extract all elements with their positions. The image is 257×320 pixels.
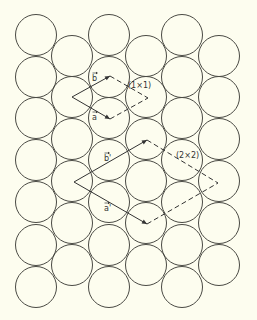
atom-circle: [199, 203, 240, 244]
atom-circle: [16, 140, 57, 181]
cell-edge-dashed: [147, 183, 218, 224]
atom-circle: [199, 161, 240, 202]
cell-label: (2×2): [176, 151, 199, 160]
basis-vector-a: [74, 182, 147, 224]
atom-circle: [162, 57, 203, 98]
atom-circle: [199, 77, 240, 118]
lattice-canvas: (1×1)ba(2×2)b'a': [0, 0, 257, 320]
vector-label-a: a: [92, 113, 97, 122]
cell-edge-dashed: [147, 140, 218, 183]
unit-cell-2x2: (2×2)b'a': [74, 140, 218, 224]
atom-circle: [162, 140, 203, 181]
atom-layer: [16, 15, 240, 308]
atom-circle: [199, 245, 240, 286]
lattice-diagram: (1×1)ba(2×2)b'a': [0, 0, 257, 320]
cell-label: (1×1): [128, 81, 151, 90]
atom-circle: [52, 245, 93, 286]
atom-circle: [52, 203, 93, 244]
atom-circle: [16, 267, 57, 308]
atom-circle: [162, 15, 203, 56]
basis-vector-b: [72, 76, 110, 97]
atom-circle: [16, 15, 57, 56]
vector-label-b: b: [92, 74, 97, 83]
atom-circle: [162, 98, 203, 139]
atom-circle: [52, 161, 93, 202]
atom-circle: [199, 119, 240, 160]
atom-circle: [52, 119, 93, 160]
atom-circle: [89, 15, 130, 56]
atom-circle: [16, 182, 57, 223]
atom-circle: [162, 267, 203, 308]
basis-vector-a: [72, 97, 110, 119]
atom-circle: [126, 245, 167, 286]
atom-circle: [126, 161, 167, 202]
atom-circle: [52, 36, 93, 77]
atom-circle: [126, 36, 167, 77]
atom-circle: [199, 36, 240, 77]
vector-label-a: a': [104, 204, 111, 213]
atom-circle: [89, 225, 130, 266]
atom-circle: [16, 57, 57, 98]
vector-label-b: b': [104, 154, 111, 163]
atom-circle: [16, 225, 57, 266]
atom-circle: [89, 267, 130, 308]
atom-circle: [16, 98, 57, 139]
atom-circle: [162, 225, 203, 266]
atom-circle: [162, 182, 203, 223]
atom-circle: [126, 119, 167, 160]
